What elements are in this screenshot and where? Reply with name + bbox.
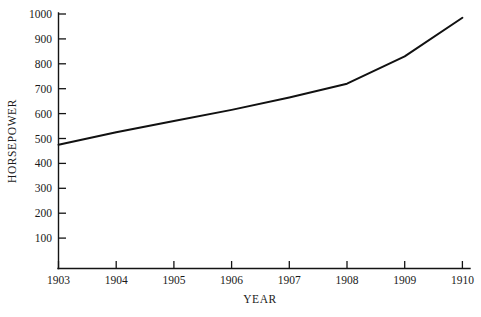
y-tick-label-300: 300 — [35, 182, 53, 194]
y-tick-label-500: 500 — [35, 133, 53, 145]
y-tick-label-200: 200 — [35, 207, 53, 219]
y-tick-label-100: 100 — [35, 232, 53, 244]
y-axis-title: HORSEPOWER — [6, 99, 18, 183]
x-tick-label-1904: 1904 — [105, 274, 128, 286]
y-tick-label-700: 700 — [35, 83, 53, 95]
horsepower-series-line — [59, 18, 463, 145]
x-tick-label-1906: 1906 — [220, 274, 243, 286]
x-tick-label-1910: 1910 — [451, 274, 474, 286]
x-tick-label-1909: 1909 — [393, 274, 416, 286]
x-tick-label-1907: 1907 — [278, 274, 301, 286]
x-tick-label-1908: 1908 — [336, 274, 359, 286]
y-tick-label-900: 900 — [35, 33, 53, 45]
y-axis-ticks — [59, 14, 67, 238]
x-tick-label-1905: 1905 — [162, 274, 185, 286]
y-tick-label-400: 400 — [35, 157, 53, 169]
y-tick-label-1000: 1000 — [29, 8, 52, 20]
horsepower-year-line-chart: HORSEPOWER YEAR 1000 900 800 700 600 500… — [0, 0, 481, 317]
x-axis-ticks — [59, 261, 463, 269]
chart-figure: HORSEPOWER YEAR 1000 900 800 700 600 500… — [0, 0, 481, 317]
y-tick-label-800: 800 — [35, 58, 53, 70]
x-axis-title: YEAR — [243, 293, 277, 305]
y-tick-label-600: 600 — [35, 108, 53, 120]
x-tick-label-1903: 1903 — [47, 274, 70, 286]
